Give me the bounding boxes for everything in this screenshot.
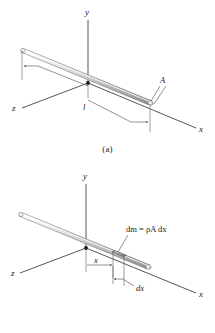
length-dimension-connector2-a: [88, 100, 131, 122]
length-label-a: l: [83, 102, 86, 112]
dx-label: dx: [136, 283, 144, 293]
rod-body-b: [18, 212, 152, 270]
dx-dimension-connector-b: [123, 279, 134, 286]
figure-panel-a: y z x: [0, 0, 215, 166]
mass-equation-label: dm = ρA dx: [126, 224, 167, 234]
y-axis-label-b: y: [82, 171, 87, 181]
figure-page: y z x: [0, 0, 215, 333]
figure-panel-b: y z x dm = ρA: [0, 166, 215, 333]
area-label-a: A: [159, 75, 166, 85]
z-axis-b: [20, 248, 86, 273]
y-axis-label-a: y: [84, 7, 89, 17]
rod-body-a: [20, 48, 154, 106]
area-leader-line-2-a: [154, 86, 166, 104]
caption-panel-a: (a): [0, 144, 215, 154]
x-distance-label: x: [93, 255, 98, 265]
area-leader-line-1-a: [151, 86, 160, 101]
z-axis-a: [22, 83, 88, 108]
mass-equation-leader-line: [118, 235, 128, 252]
panel-b-drawing: y z x dm = ρA: [0, 166, 215, 306]
z-axis-label-a: z: [11, 103, 16, 113]
x-axis-label-a: x: [198, 124, 203, 134]
x-axis-label-b: x: [198, 289, 203, 299]
panel-a-drawing: y z x: [0, 0, 215, 140]
x-axis-a: [88, 83, 196, 128]
z-axis-label-b: z: [10, 268, 15, 278]
